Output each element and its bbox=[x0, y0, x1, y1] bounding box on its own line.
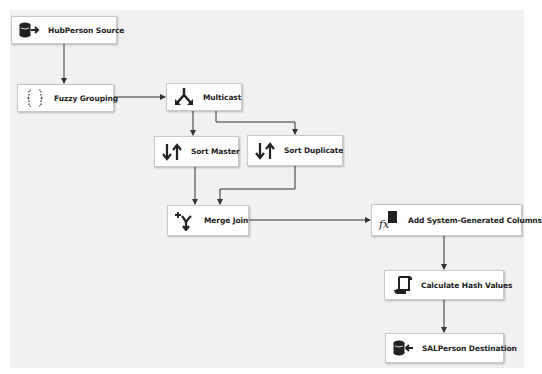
sort-arrows-icon bbox=[161, 142, 183, 162]
derived-column-fx-icon: fx bbox=[378, 210, 400, 230]
node-sort-duplicate[interactable]: Sort Duplicate bbox=[247, 135, 343, 166]
sort-arrows-icon bbox=[254, 141, 276, 161]
node-sort-master[interactable]: Sort Master bbox=[154, 136, 239, 167]
node-fuzzy-grouping[interactable]: Fuzzy Grouping bbox=[17, 84, 114, 112]
node-merge-join[interactable]: Merge Join bbox=[167, 205, 249, 236]
node-label: Calculate Hash Values bbox=[421, 281, 512, 290]
node-add-system-generated-columns[interactable]: fx Add System-Generated Columns bbox=[371, 204, 522, 236]
database-source-icon bbox=[18, 20, 40, 40]
script-scroll-icon bbox=[391, 275, 413, 295]
svg-text:fx: fx bbox=[378, 218, 390, 230]
node-calculate-hash-values[interactable]: Calculate Hash Values bbox=[384, 270, 504, 300]
node-label: Sort Duplicate bbox=[284, 146, 343, 155]
node-label: Merge Join bbox=[204, 216, 248, 225]
node-label: SALPerson Destination bbox=[422, 344, 517, 353]
node-label: Sort Master bbox=[191, 147, 240, 156]
data-flow-canvas[interactable] bbox=[10, 10, 524, 368]
database-destination-icon bbox=[392, 338, 414, 358]
node-label: Add System-Generated Columns bbox=[408, 216, 542, 225]
node-label: Fuzzy Grouping bbox=[54, 94, 118, 103]
merge-join-icon bbox=[174, 211, 196, 231]
multicast-split-icon bbox=[173, 87, 195, 107]
fuzzy-braces-icon bbox=[24, 88, 46, 108]
node-multicast[interactable]: Multicast bbox=[166, 83, 242, 111]
node-label: Multicast bbox=[203, 93, 241, 102]
node-label: HubPerson Source bbox=[48, 26, 124, 35]
node-salperson-destination[interactable]: SALPerson Destination bbox=[385, 333, 504, 363]
node-hubperson-source[interactable]: HubPerson Source bbox=[11, 16, 117, 44]
